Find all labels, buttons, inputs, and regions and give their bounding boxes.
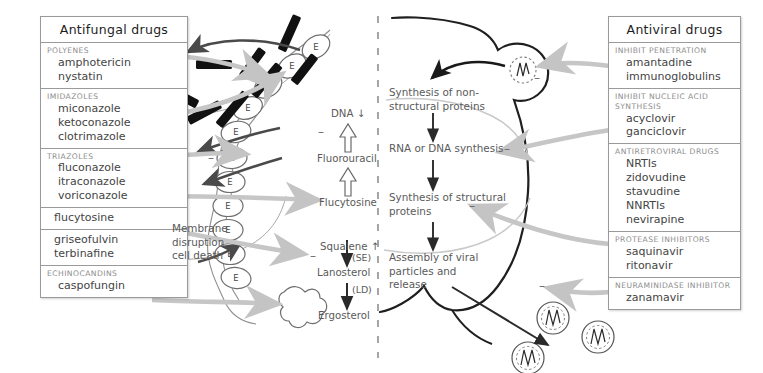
drug-item: nevirapine	[615, 213, 734, 227]
virion	[582, 321, 614, 353]
drug-group-inhibit-penetration[interactable]: INHIBIT PENETRATION amantadine immunoglo…	[609, 43, 740, 89]
drug-item: caspofungin	[47, 279, 181, 293]
pathway-node-fluorouracil: Fluorouracil	[317, 152, 377, 165]
pathway-node-structural-proteins: Synthesis of structural proteins	[389, 191, 506, 218]
virion	[537, 302, 569, 334]
drug-group-misc-antifungals[interactable]: griseofulvin terbinafine	[41, 230, 187, 266]
svg-text:E: E	[289, 61, 294, 71]
inhibition-mark: –	[318, 126, 324, 138]
antiviral-panel-title: Antiviral drugs	[609, 17, 740, 43]
drug-category-label: ECHINOCANDINS	[47, 269, 181, 279]
drug-category-label: INHIBIT NUCLEIC ACID SYNTHESIS	[615, 92, 734, 112]
svg-text:E: E	[313, 42, 318, 52]
drug-category-label: ANTIRETROVIRAL DRUGS	[615, 147, 734, 157]
inhibition-mark: –	[534, 72, 540, 84]
drug-item: NRTIs	[615, 157, 734, 171]
pathway-node-assembly-release: Assembly of viral particles and release	[389, 251, 478, 292]
drug-group-imidazoles[interactable]: IMIDAZOLES miconazole ketoconazole clotr…	[41, 89, 187, 149]
virion	[512, 342, 544, 373]
svg-text:E: E	[245, 103, 250, 113]
drug-category-label: NEURAMINIDASE INHIBITOR	[615, 281, 734, 291]
pathway-node-lanosterol: Lanosterol	[317, 266, 370, 279]
antifungal-drugs-panel: Antifungal drugs POLYENES amphotericin n…	[40, 16, 188, 298]
membrane-disruption-note: Membrane disruption cell death	[172, 222, 228, 263]
drug-category-label: INHIBIT PENETRATION	[615, 46, 734, 56]
drug-item: nystatin	[47, 70, 181, 84]
inhibition-mark: –	[310, 250, 316, 262]
pathway-node-ergosterol: Ergosterol	[318, 309, 370, 322]
drug-item: itraconazole	[47, 175, 181, 189]
drug-item: zidovudine	[615, 171, 734, 185]
drug-item: ritonavir	[615, 259, 734, 273]
pathway-node-nonstructural-proteins: Synthesis of non- structural proteins	[389, 86, 485, 113]
drug-item: saquinavir	[615, 245, 734, 259]
pathway-node-nucleic-acid-synthesis: RNA or DNA synthesis	[389, 142, 503, 156]
enzyme-label-squalene-epoxidase: (SE)	[352, 252, 371, 264]
figure-canvas: E E E E E E E E E E E	[0, 0, 763, 373]
drug-item: amphotericin	[47, 56, 181, 70]
pathway-node-dna: DNA ↓	[331, 107, 365, 120]
virus-particles-released	[452, 287, 614, 373]
inhibition-mark: –	[208, 152, 214, 164]
drug-item: immunoglobulins	[615, 70, 734, 84]
enzyme-label-lanosterol-demethylase: (LD)	[352, 284, 372, 296]
antifungal-panel-title: Antifungal drugs	[41, 17, 187, 43]
drug-group-inhibit-nucleic-acid-synthesis[interactable]: INHIBIT NUCLEIC ACID SYNTHESIS acyclovir…	[609, 89, 740, 145]
drug-group-polyenes[interactable]: POLYENES amphotericin nystatin	[41, 43, 187, 89]
drug-item: voriconazole	[47, 189, 181, 203]
drug-group-triazoles[interactable]: TRIAZOLES fluconazole itraconazole voric…	[41, 149, 187, 209]
svg-text:E: E	[227, 177, 232, 187]
svg-text:E: E	[225, 201, 230, 211]
drug-item: miconazole	[47, 102, 181, 116]
drug-item: fluconazole	[47, 161, 181, 175]
virus-particle-internalized	[510, 57, 536, 83]
drug-item: amantadine	[615, 56, 734, 70]
antiviral-drugs-panel: Antiviral drugs INHIBIT PENETRATION aman…	[608, 16, 741, 310]
svg-text:E: E	[233, 127, 238, 137]
drug-item: acyclovir	[615, 112, 734, 126]
drug-category-label: TRIAZOLES	[47, 152, 181, 162]
drug-item: clotrimazole	[47, 130, 181, 144]
drug-category-label: POLYENES	[47, 46, 181, 56]
pathway-node-flucytosine: Flucytosine	[319, 196, 377, 209]
drug-item: ganciclovir	[615, 125, 734, 139]
inhibition-mark: –	[469, 200, 475, 212]
drug-category-label: PROTEASE INHIBITORS	[615, 235, 734, 245]
drug-item: NNRTIs	[615, 199, 734, 213]
svg-text:E: E	[233, 273, 238, 283]
drug-item: ketoconazole	[47, 116, 181, 130]
inhibition-mark: –	[539, 280, 545, 292]
drug-category-label: IMIDAZOLES	[47, 92, 181, 102]
drug-group-antiretroviral[interactable]: ANTIRETROVIRAL DRUGS NRTIs zidovudine st…	[609, 144, 740, 232]
drug-item: griseofulvin	[47, 233, 181, 247]
inhibition-mark: –	[504, 143, 510, 155]
drug-item: terbinafine	[47, 247, 181, 261]
drug-group-echinocandins[interactable]: ECHINOCANDINS caspofungin	[41, 266, 187, 297]
drug-item: zanamavir	[615, 291, 734, 305]
drug-group-flucytosine[interactable]: flucytosine	[41, 208, 187, 230]
drug-item: stavudine	[615, 185, 734, 199]
drug-group-protease-inhibitors[interactable]: PROTEASE INHIBITORS saquinavir ritonavir	[609, 232, 740, 278]
drug-item: flucytosine	[47, 211, 181, 225]
drug-group-neuraminidase-inhibitor[interactable]: NEURAMINIDASE INHIBITOR zanamavir	[609, 278, 740, 309]
